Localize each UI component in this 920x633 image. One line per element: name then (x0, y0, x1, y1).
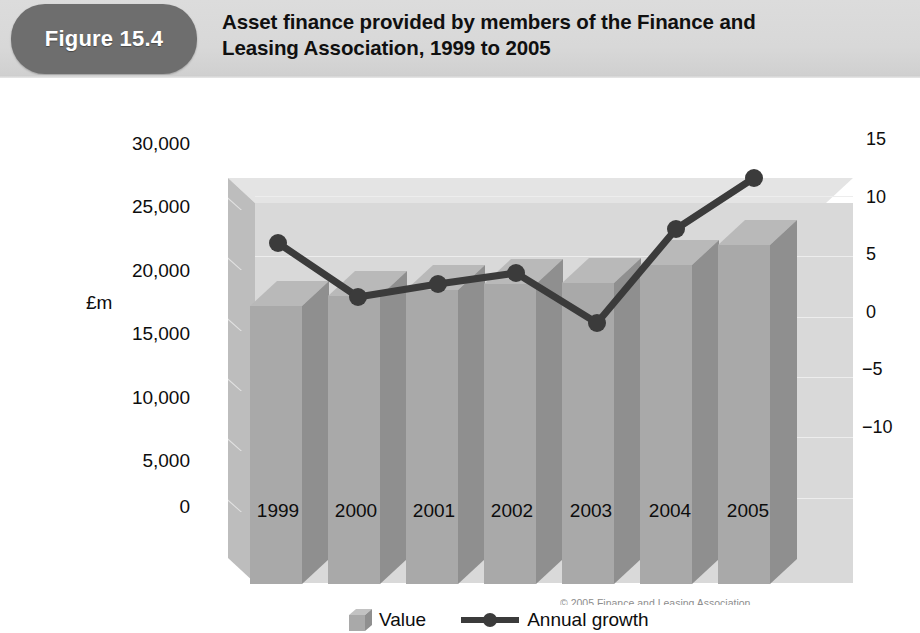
bar-side-face-2000 (380, 271, 407, 584)
left-axis-tick-30000: 30,000 (70, 133, 190, 155)
x-axis-tick-2001: 2001 (394, 500, 474, 522)
bar-side-face-2002 (536, 259, 563, 584)
bar-2001 (406, 265, 458, 584)
bar-front-face-1999 (250, 306, 302, 584)
left-axis-tick-25000: 25,000 (70, 196, 190, 218)
left-axis-tick-5000: 5,000 (70, 450, 190, 472)
legend-item-annual-growth: Annual growth (461, 609, 648, 631)
plot-3d-box (228, 178, 853, 583)
figure-title: Asset finance provided by members of the… (222, 9, 882, 61)
legend-label-value: Value (379, 609, 426, 631)
left-axis-tick-15000: 15,000 (70, 323, 190, 345)
footer-copyright-cropped: © 2005 Finance and Leasing Association (560, 597, 920, 605)
bar-2003 (562, 258, 614, 584)
right-axis-tick-5: 5 (866, 244, 920, 265)
bar-front-face-2003 (562, 283, 614, 584)
bar-2000 (328, 271, 380, 584)
figure-number-label: Figure 15.4 (11, 4, 197, 74)
left-axis-tick-10000: 10,000 (70, 387, 190, 409)
plot-ceiling-face (228, 178, 853, 203)
bar-2004 (640, 240, 692, 584)
right-axis-tick-minus10: −10 (862, 417, 920, 438)
line-dot-swatch-icon (461, 613, 519, 627)
bar-side-face-2005 (770, 220, 797, 584)
bar-side-face-2001 (458, 265, 485, 584)
x-axis-tick-2003: 2003 (551, 500, 631, 522)
figure-title-line-2: Leasing Association, 1999 to 2005 (222, 35, 882, 61)
cube-swatch-icon (349, 609, 371, 631)
figure-header-band: Figure 15.4 Asset finance provided by me… (0, 0, 920, 78)
right-axis-tick-10: 10 (866, 187, 920, 208)
x-axis-tick-2000: 2000 (316, 500, 396, 522)
bar-front-face-2000 (328, 296, 380, 584)
bar-front-face-2004 (640, 265, 692, 584)
bar-1999 (250, 281, 302, 584)
figure-title-line-1: Asset finance provided by members of the… (222, 9, 882, 35)
legend-item-value: Value (349, 609, 426, 631)
x-axis-tick-2004: 2004 (630, 500, 710, 522)
bar-2005 (718, 220, 770, 584)
x-axis-tick-2002: 2002 (472, 500, 552, 522)
bar-front-face-2005 (718, 245, 770, 584)
x-axis-tick-1999: 1999 (238, 500, 318, 522)
right-axis-tick-minus5: −5 (862, 359, 920, 380)
figure-number-badge: Figure 15.4 (11, 4, 197, 74)
left-axis-unit-label: £m (86, 292, 112, 314)
right-axis-tick-0: 0 (866, 302, 920, 323)
chart-area: £m 30,000 25,000 20,000 15,000 10,000 5,… (0, 78, 920, 605)
legend-label-annual-growth: Annual growth (527, 609, 648, 631)
bar-2002 (484, 259, 536, 584)
left-axis-tick-20000: 20,000 (70, 260, 190, 282)
bar-front-face-2002 (484, 284, 536, 584)
right-axis-tick-15: 15 (866, 129, 920, 150)
bar-side-face-1999 (302, 281, 329, 584)
bar-side-face-2004 (692, 240, 719, 584)
chart-legend: Value Annual growth (349, 607, 649, 633)
bar-front-face-2001 (406, 290, 458, 584)
bar-side-face-2003 (614, 258, 641, 584)
left-axis-tick-0: 0 (70, 496, 190, 518)
x-axis-tick-2005: 2005 (708, 500, 788, 522)
gridline-30000 (255, 196, 853, 197)
